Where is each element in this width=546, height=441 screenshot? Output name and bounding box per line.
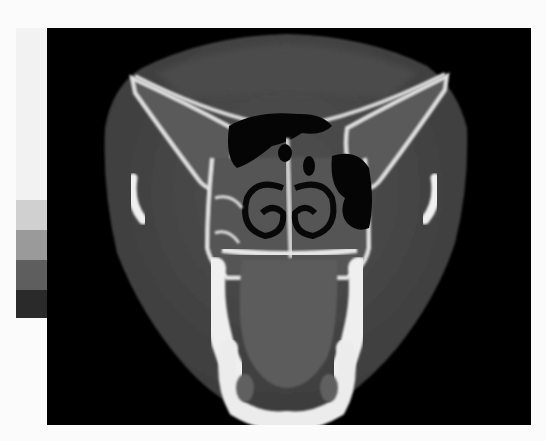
gray-step-3	[16, 230, 47, 260]
gray-step-2	[16, 200, 47, 230]
ct-scan-panel	[47, 28, 531, 425]
gray-step-1	[16, 28, 47, 200]
gray-step-5	[16, 290, 47, 318]
grayscale-calibration-strip	[16, 28, 47, 318]
gray-step-4	[16, 260, 47, 290]
ct-coronal-slice	[47, 28, 531, 425]
